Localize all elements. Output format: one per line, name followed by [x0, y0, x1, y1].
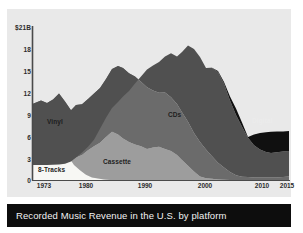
y-tick-9: 9: [27, 112, 31, 119]
y-tick-6: 6: [27, 134, 31, 141]
x-tick-2000: 2000: [198, 182, 212, 189]
y-tick-18: 18: [24, 46, 31, 53]
stacked-areas: [33, 46, 289, 181]
chart-title: Recorded Music Revenue in the U.S. by pl…: [7, 210, 227, 221]
chart-figure: $21B 18 15 12 9 6 3 0 1973 1980 1990 200…: [0, 0, 303, 233]
series-label-vinyl: Vinyl: [47, 118, 63, 125]
series-label-digital: Digital: [252, 117, 273, 124]
x-tick-2015: 2015: [280, 182, 294, 189]
x-tick-2010: 2010: [255, 182, 269, 189]
x-axis-labels: 1973 1980 1990 2000 2010 2015: [0, 182, 303, 196]
series-label-cds: CDs: [168, 111, 181, 118]
series-label-eight-tracks: 8-Tracks: [38, 166, 65, 173]
y-tick-12: 12: [24, 90, 31, 97]
x-tick-1990: 1990: [138, 182, 152, 189]
y-tick-3: 3: [27, 156, 31, 163]
x-tick-1980: 1980: [79, 182, 93, 189]
y-axis-labels: $21B 18 15 12 9 6 3 0: [7, 9, 33, 197]
y-tick-15: 15: [24, 68, 31, 75]
series-label-cassette: Cassette: [103, 158, 131, 165]
chart-title-bar: Recorded Music Revenue in the U.S. by pl…: [7, 204, 291, 227]
y-tick-21: $21B: [15, 24, 31, 31]
x-tick-1973: 1973: [37, 182, 51, 189]
